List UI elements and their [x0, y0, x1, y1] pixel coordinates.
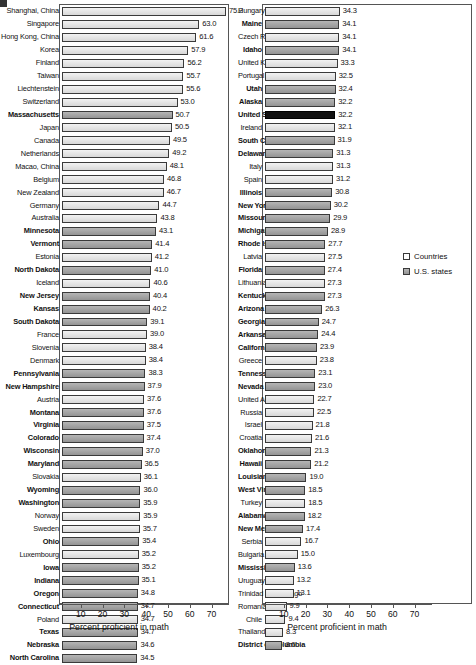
bar-track: 32.2: [265, 109, 472, 122]
bar-row-label: Georgia: [238, 318, 265, 326]
bar-track: 21.2: [265, 458, 472, 471]
bar-value-label: 56.2: [187, 58, 201, 68]
bar-value-label: 36.0: [143, 485, 157, 495]
bar-row-label: Hawaii: [238, 460, 265, 468]
bar: [265, 20, 339, 29]
bar-value-label: 32.4: [339, 84, 353, 94]
bar: [265, 214, 330, 223]
bar-row: Oklahoma21.3: [238, 445, 472, 458]
bar-track: 31.2: [265, 173, 472, 186]
bar-value-label: 17.4: [306, 524, 320, 534]
bar-row-label: Turkey: [238, 499, 265, 507]
bar-value-label: 33.3: [341, 58, 355, 68]
bar-row: Utah32.4: [238, 83, 472, 96]
bar-row-label: Vermont: [0, 240, 62, 248]
bar-value-label: 35.1: [142, 575, 156, 585]
bar-track: 13.1: [265, 587, 472, 600]
bar-value-label: 13.2: [297, 575, 311, 585]
bar-value-label: 27.5: [328, 252, 342, 262]
bar-row: District of Columbia8.0: [238, 639, 472, 652]
bar: [62, 408, 144, 417]
bar: [62, 20, 199, 29]
bar: [62, 330, 147, 339]
bar-track: 39.0: [62, 328, 229, 341]
axis-tick: [81, 604, 82, 608]
bar: [265, 343, 317, 352]
bar-row-label: Michigan: [238, 227, 265, 235]
bar-value-label: 31.3: [336, 161, 350, 171]
bar-value-label: 30.2: [334, 200, 348, 210]
bar-track: 31.3: [265, 160, 472, 173]
bar-row-label: United Arab Emirates: [238, 396, 265, 404]
bar: [265, 227, 328, 236]
bar-value-label: 22.7: [317, 394, 331, 404]
bar-row-label: Belgium: [0, 176, 62, 184]
bar-track: 37.5: [62, 419, 229, 432]
bar-row: Romania9.9: [238, 600, 472, 613]
bar-row: United Kingdom33.3: [238, 57, 472, 70]
bar-row: Slovakia36.1: [0, 471, 229, 484]
bar-value-label: 28.9: [331, 226, 345, 236]
bar-value-label: 27.7: [328, 239, 342, 249]
right-rows: Hungary34.3Maine34.1Czech Republic34.1Id…: [238, 5, 472, 652]
bar-row: Israel21.8: [238, 419, 472, 432]
bar-track: 38.3: [62, 367, 229, 380]
bar: [265, 369, 315, 378]
bar-row-label: United Kingdom: [238, 59, 265, 67]
bar-track: 46.7: [62, 186, 229, 199]
bar: [265, 72, 336, 81]
bar-row-label: Wisconsin: [0, 447, 62, 455]
bar-row-label: Trinidad and Tobago: [238, 590, 265, 598]
bar-track: 29.9: [265, 212, 472, 225]
legend-item-countries: Countries: [403, 252, 452, 261]
bar: [62, 7, 226, 16]
bar-value-label: 50.5: [175, 122, 189, 132]
bar: [62, 279, 150, 288]
bar-track: 31.3: [265, 147, 472, 160]
bar-row: Italy31.3: [238, 160, 472, 173]
bar-row-label: Louisiana: [238, 473, 265, 481]
bar-row-label: Liechtenstein: [0, 85, 62, 93]
bar-track: 8.0: [265, 639, 472, 652]
bar-row: Norway35.9: [0, 510, 229, 523]
chart-legend: Countries U.S. states: [403, 252, 452, 282]
bar-value-label: 46.7: [167, 187, 181, 197]
axis-tick: [393, 604, 394, 608]
bar-track: 75.2: [62, 5, 229, 18]
bar-value-label: 55.6: [186, 84, 200, 94]
bar-row: Montana37.6: [0, 406, 229, 419]
axis-tick: [146, 604, 147, 608]
bar: [62, 98, 178, 107]
bar-row: Finland56.2: [0, 57, 229, 70]
bar-track: 41.4: [62, 238, 229, 251]
bar: [265, 266, 325, 275]
bar: [62, 318, 147, 327]
bar: [265, 486, 305, 495]
bar-track: 55.6: [62, 83, 229, 96]
bar: [265, 395, 314, 404]
bar-row-label: West Virginia: [238, 486, 265, 494]
bar-track: 34.6: [62, 639, 229, 652]
bar-row-label: Netherlands: [0, 150, 62, 158]
bar-row-label: Denmark: [0, 357, 62, 365]
bar-value-label: 46.8: [167, 174, 181, 184]
bar-track: 35.9: [62, 510, 229, 523]
bar-row: New Hampshire37.9: [0, 380, 229, 393]
bar-value-label: 44.7: [162, 200, 176, 210]
bar-value-label: 39.0: [150, 329, 164, 339]
bar-value-label: 32.5: [339, 71, 353, 81]
bar-track: 35.1: [62, 574, 229, 587]
bar-row-label: Russia: [238, 409, 265, 417]
bar-value-label: 23.0: [318, 381, 332, 391]
bar-track: 30.2: [265, 199, 472, 212]
bar-row: Singapore63.0: [0, 18, 229, 31]
bar-row-label: New Jersey: [0, 292, 62, 300]
bar-row: United Arab Emirates22.7: [238, 393, 472, 406]
bar-row-label: North Carolina: [0, 654, 62, 662]
bar-row-label: Wyoming: [0, 486, 62, 494]
bar-row: Portugal32.5: [238, 70, 472, 83]
bar-track: 34.1: [265, 31, 472, 44]
bar-row: Liechtenstein55.6: [0, 83, 229, 96]
bar-row: United States32.2: [238, 109, 472, 122]
bar: [62, 240, 152, 249]
